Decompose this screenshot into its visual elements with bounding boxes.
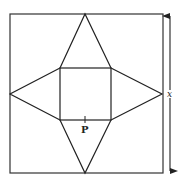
side-label-x: x (167, 89, 172, 99)
inner-square (60, 68, 111, 120)
top-triangle (60, 14, 111, 68)
point-label-p: P (81, 124, 89, 135)
left-triangle (10, 68, 60, 120)
outer-square (10, 14, 163, 173)
right-triangle (111, 68, 162, 120)
pyramid-net-diagram: P x (0, 0, 180, 184)
